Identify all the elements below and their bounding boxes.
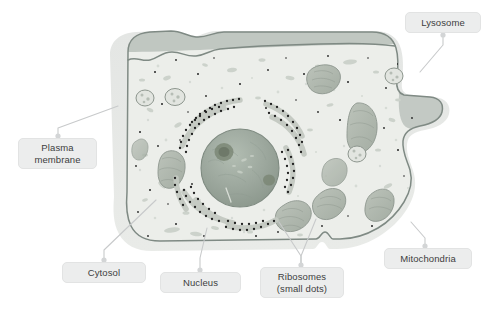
lysosome [385, 68, 403, 84]
nucleus [201, 129, 279, 207]
leader-plasma-membrane [58, 106, 118, 138]
label-nucleus-text: Nucleus [183, 277, 218, 289]
cell-diagram: Lysosome Plasma membrane Cytosol Nucleus… [0, 0, 491, 319]
leader-lysosome [420, 33, 443, 72]
label-ribosomes-text: Ribosomes (small dots) [277, 271, 327, 294]
label-lysosome[interactable]: Lysosome [405, 12, 481, 33]
label-mitochondria-text: Mitochondria [400, 253, 456, 265]
lysosome [136, 90, 154, 106]
nucleolus [263, 175, 275, 186]
label-mitochondria[interactable]: Mitochondria [384, 248, 472, 269]
label-ribosomes[interactable]: Ribosomes (small dots) [260, 267, 344, 298]
label-plasma-membrane-text: Plasma membrane [34, 142, 80, 165]
lysosome [165, 89, 185, 106]
leader-mitochondria [411, 222, 425, 248]
label-cytosol-text: Cytosol [88, 267, 120, 279]
label-cytosol[interactable]: Cytosol [62, 262, 146, 283]
lysosome [348, 146, 366, 162]
label-lysosome-text: Lysosome [421, 17, 465, 29]
label-plasma-membrane[interactable]: Plasma membrane [18, 138, 97, 169]
label-nucleus[interactable]: Nucleus [160, 272, 241, 293]
